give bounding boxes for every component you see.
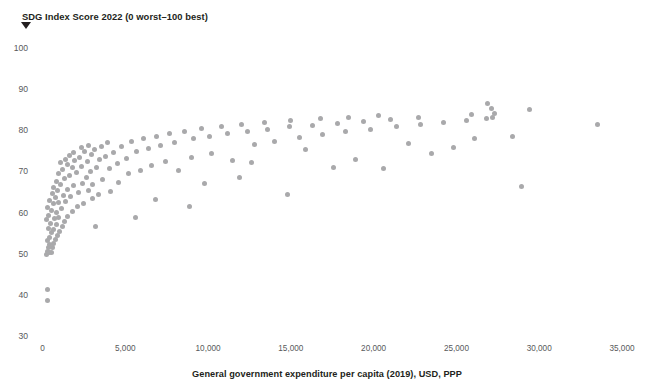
data-point: [115, 161, 120, 166]
data-point: [56, 200, 61, 205]
data-point: [418, 122, 423, 127]
data-point: [50, 191, 55, 196]
data-point: [207, 134, 212, 139]
data-point: [54, 179, 59, 184]
data-point: [287, 124, 292, 129]
data-point: [90, 182, 95, 187]
data-point: [149, 163, 154, 168]
data-point: [47, 235, 52, 240]
data-point: [265, 127, 270, 132]
scatter-chart: SDG Index Score 2022 (0 worst–100 best) …: [0, 0, 654, 386]
data-point: [100, 177, 105, 182]
data-point: [76, 190, 81, 195]
data-point: [55, 188, 60, 193]
data-point: [353, 157, 358, 162]
data-point: [56, 215, 61, 220]
data-point: [189, 155, 194, 160]
data-point: [252, 142, 257, 147]
data-point: [310, 123, 315, 128]
data-point: [105, 140, 110, 145]
data-point: [49, 250, 54, 255]
y-tick-label-40: 40: [2, 290, 28, 300]
data-point: [490, 115, 495, 120]
data-point: [96, 192, 101, 197]
y-tick-label-50: 50: [2, 249, 28, 259]
data-point: [245, 129, 250, 134]
plot-area: 30405060708090100 05,00010,00015,00020,0…: [0, 0, 654, 386]
data-point: [249, 160, 254, 165]
data-point: [388, 117, 393, 122]
data-point: [57, 229, 62, 234]
data-point: [80, 181, 85, 186]
x-tick-label-10000: 10,000: [196, 344, 221, 354]
data-point: [191, 136, 196, 141]
data-point: [154, 134, 159, 139]
data-point: [67, 173, 72, 178]
data-point: [595, 122, 600, 127]
data-point: [406, 141, 411, 146]
data-point: [58, 182, 63, 187]
y-tick-label-100: 100: [2, 43, 28, 53]
data-point: [146, 146, 151, 151]
data-point: [394, 124, 399, 129]
data-point: [134, 149, 139, 154]
data-point: [116, 180, 121, 185]
data-point: [343, 129, 348, 134]
data-point: [77, 155, 82, 160]
data-point: [107, 166, 112, 171]
data-point: [71, 183, 76, 188]
y-tick-label-70: 70: [2, 166, 28, 176]
data-point: [111, 150, 116, 155]
data-point: [346, 115, 351, 120]
x-tick-label-5000: 5,000: [115, 344, 136, 354]
data-point: [46, 213, 51, 218]
data-point: [158, 143, 163, 148]
data-point: [74, 170, 79, 175]
data-point: [489, 106, 494, 111]
data-point: [272, 139, 277, 144]
x-tick-label-20000: 20,000: [361, 344, 386, 354]
data-point: [59, 206, 64, 211]
x-tick-label-30000: 30,000: [527, 344, 552, 354]
data-point: [99, 144, 104, 149]
data-point: [68, 194, 73, 199]
data-point: [54, 222, 59, 227]
data-point: [61, 193, 66, 198]
data-point: [45, 298, 50, 303]
data-point: [50, 245, 55, 250]
data-point: [318, 116, 323, 121]
data-point: [54, 210, 59, 215]
y-tick-label-90: 90: [2, 84, 28, 94]
data-point: [176, 168, 181, 173]
data-point: [469, 112, 474, 117]
data-point: [48, 221, 53, 226]
data-point: [56, 171, 61, 176]
data-point: [86, 188, 91, 193]
data-point: [65, 187, 70, 192]
x-tick-label-35000: 35,000: [609, 344, 634, 354]
data-point: [288, 118, 293, 123]
data-point: [108, 189, 113, 194]
data-point: [85, 159, 90, 164]
data-point: [303, 147, 308, 152]
data-point: [429, 151, 434, 156]
data-point: [51, 227, 56, 232]
data-point: [361, 119, 366, 124]
y-tick-label-30: 30: [2, 331, 28, 341]
data-point: [126, 171, 131, 176]
data-point: [63, 199, 68, 204]
data-point: [153, 197, 158, 202]
data-point: [163, 159, 168, 164]
data-point: [62, 219, 67, 224]
data-point: [187, 204, 192, 209]
data-point: [172, 140, 177, 145]
data-point: [285, 192, 290, 197]
data-point: [464, 118, 469, 123]
data-point: [133, 215, 138, 220]
data-point: [320, 132, 325, 137]
data-point: [472, 136, 477, 141]
data-point: [527, 107, 532, 112]
data-point: [141, 136, 146, 141]
data-point: [86, 143, 91, 148]
data-point: [225, 131, 230, 136]
